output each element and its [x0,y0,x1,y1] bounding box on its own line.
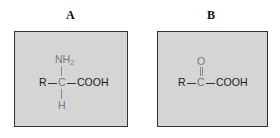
bond-bottom [61,89,62,99]
keto-oxygen: O [197,56,205,67]
carboxyl-group: COOH [77,77,109,88]
carbonyl-carbon: C [197,77,205,88]
double-bond-left [200,67,201,76]
panel-a-box: NH2 R C COOH H [14,31,128,127]
bond-left [48,83,57,84]
r-group: R [39,77,47,88]
bond-left [187,83,196,84]
bond-right [206,83,215,84]
panel-b-label: B [207,8,215,23]
r-group: R [178,77,186,88]
double-bond-right [202,67,203,76]
panel-b-box: O R C COOH [157,31,268,127]
panel-a-label: A [66,8,75,23]
hydrogen: H [58,100,66,111]
bond-right [67,83,76,84]
bond-top [61,66,62,76]
amino-group: NH2 [55,54,74,66]
carboxyl-group: COOH [216,77,248,88]
alpha-carbon: C [58,77,66,88]
